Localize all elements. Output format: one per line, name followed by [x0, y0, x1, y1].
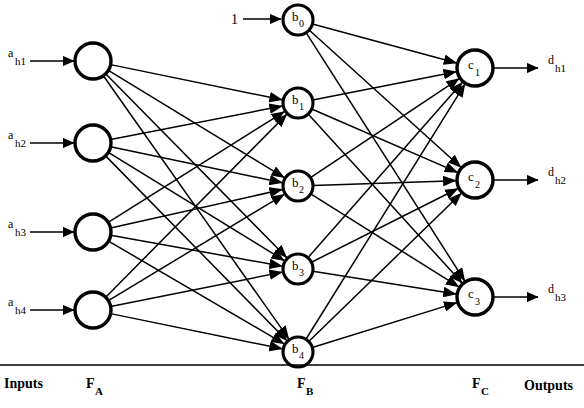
input-label-sub-a-node-1: h1 — [15, 55, 26, 67]
layer-label-fc-sub: C — [481, 385, 489, 397]
hidden-node-sub-b0: 0 — [299, 18, 304, 29]
edge-a-node-3-to-b3 — [111, 235, 283, 266]
layer-label-fa-sub: A — [95, 385, 103, 397]
hidden-node-label-b3: b — [292, 258, 299, 273]
hidden-node-sub-b1: 1 — [299, 101, 304, 112]
bias-input-label: 1 — [231, 12, 238, 27]
output-node-sub-c3: 3 — [475, 296, 480, 307]
edge-b3-to-c3 — [313, 271, 456, 294]
output-label-main-c3: d — [548, 282, 554, 296]
layer-label-fa-main: F — [86, 376, 95, 391]
nodes-group — [75, 5, 493, 367]
input-label-sub-a-node-2: h2 — [15, 137, 26, 149]
input-label-sub-a-node-3: h3 — [15, 226, 27, 238]
input-node-a-node-3[interactable] — [75, 214, 111, 250]
output-node-label-c2: c — [468, 169, 474, 184]
input-label-main-a-node-2: a — [8, 128, 14, 142]
input-node-a-node-4[interactable] — [75, 292, 111, 328]
edge-b0-to-c1 — [312, 24, 456, 63]
hidden-node-label-b2: b — [292, 175, 299, 190]
caption-outputs: Outputs — [524, 378, 574, 393]
input-label-sub-a-node-4: h4 — [15, 304, 27, 316]
edge-a-node-2-to-b2 — [111, 147, 283, 183]
output-label-sub-c1: h1 — [555, 62, 566, 74]
edge-a-node-4-to-b4 — [111, 314, 283, 349]
layer-label-fc-main: F — [472, 376, 481, 391]
hidden-node-sub-b3: 3 — [299, 267, 304, 278]
output-label-sub-c3: h3 — [555, 291, 567, 303]
input-label-main-a-node-3: a — [8, 217, 14, 231]
edge-b3-to-c2 — [311, 189, 458, 263]
edge-b0-to-c3 — [306, 33, 465, 281]
input-node-a-node-1[interactable] — [75, 43, 111, 79]
input-label-main-a-node-1: a — [8, 46, 14, 60]
hidden-node-label-b1: b — [292, 92, 299, 107]
output-label-main-c2: d — [548, 165, 554, 179]
edge-a-node-3-to-b4 — [109, 241, 285, 344]
edges-hidden-to-output — [306, 24, 465, 348]
input-label-main-a-node-4: a — [8, 295, 14, 309]
edge-a-node-4-to-b2 — [108, 194, 284, 300]
network-svg: ah1ah2ah3ah41dh1dh2dh3b0b1b2b3b4c1c2c3FA… — [0, 0, 584, 408]
output-node-label-c3: c — [468, 286, 474, 301]
edge-b2-to-c2 — [313, 181, 456, 186]
edge-a-node-1-to-b2 — [108, 70, 284, 177]
edge-a-node-1-to-b3 — [106, 74, 287, 258]
hidden-node-label-b0: b — [292, 9, 299, 24]
output-node-sub-c1: 1 — [475, 67, 480, 78]
input-node-a-node-2[interactable] — [75, 125, 111, 161]
edge-b2-to-c3 — [311, 194, 459, 287]
edge-b3-to-c1 — [308, 82, 463, 257]
layer-label-fb-sub: B — [306, 385, 314, 397]
caption-inputs: Inputs — [4, 376, 43, 391]
output-label-main-c1: d — [548, 53, 554, 67]
hidden-node-sub-b4: 4 — [299, 350, 304, 361]
edges-input-to-hidden — [103, 65, 288, 349]
edge-a-node-4-to-b1 — [106, 114, 287, 297]
output-node-label-c1: c — [468, 57, 474, 72]
edge-a-node-1-to-b1 — [111, 65, 283, 100]
edge-a-node-3-to-b2 — [111, 190, 283, 229]
hidden-node-sub-b2: 2 — [299, 184, 304, 195]
edge-b4-to-c3 — [312, 303, 457, 348]
edge-b4-to-c1 — [306, 84, 465, 339]
output-node-sub-c2: 2 — [475, 179, 480, 190]
neural-network-diagram: ah1ah2ah3ah41dh1dh2dh3b0b1b2b3b4c1c2c3FA… — [0, 0, 584, 408]
edge-b0-to-c2 — [309, 30, 461, 167]
edge-b4-to-c2 — [309, 193, 462, 341]
edge-a-node-4-to-b3 — [111, 272, 283, 306]
output-label-sub-c2: h2 — [555, 174, 566, 186]
hidden-node-label-b4: b — [292, 341, 299, 356]
layer-label-fb-main: F — [297, 376, 306, 391]
